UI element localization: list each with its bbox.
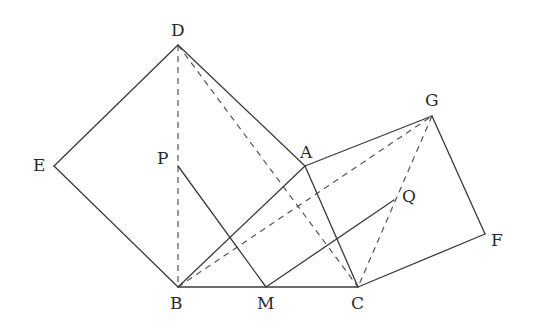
point-label-f: F bbox=[491, 230, 503, 250]
segment-dc bbox=[178, 45, 358, 287]
segment-da bbox=[178, 45, 305, 166]
segment-ac bbox=[305, 166, 358, 287]
point-label-b: B bbox=[170, 293, 183, 313]
segment-gf bbox=[432, 116, 485, 234]
point-label-a: A bbox=[299, 142, 313, 162]
point-label-d: D bbox=[171, 20, 185, 40]
point-label-e: E bbox=[33, 155, 45, 175]
solid-lines bbox=[54, 45, 485, 287]
segment-eb bbox=[54, 166, 178, 287]
point-label-g: G bbox=[425, 90, 439, 110]
diagram-svg: ABCDEFGMPQ bbox=[0, 0, 533, 329]
segment-ab bbox=[178, 166, 305, 287]
point-label-p: P bbox=[157, 148, 168, 168]
segment-mq bbox=[266, 200, 394, 287]
point-label-q: Q bbox=[402, 186, 416, 206]
point-label-c: C bbox=[351, 293, 364, 313]
segment-pm bbox=[178, 166, 266, 287]
point-labels: ABCDEFGMPQ bbox=[33, 20, 503, 313]
segment-ag bbox=[305, 116, 432, 166]
point-label-m: M bbox=[257, 293, 274, 313]
geometry-diagram: ABCDEFGMPQ bbox=[0, 0, 533, 329]
